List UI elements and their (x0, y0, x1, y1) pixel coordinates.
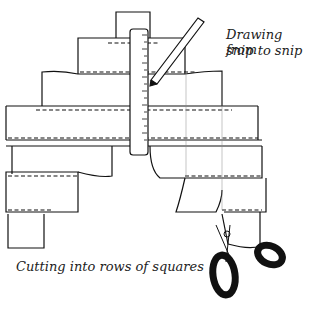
drawing-caption-line2: snip to snip (226, 43, 302, 58)
cutting-caption: Cutting into rows of squares (16, 259, 204, 274)
illustration: Drawing from snip to snip Cutting into r… (0, 0, 314, 309)
